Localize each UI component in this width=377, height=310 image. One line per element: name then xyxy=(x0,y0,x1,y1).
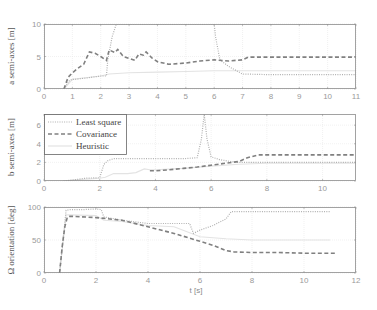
y-tick-label: 100 xyxy=(28,203,42,212)
x-tick-label: 4 xyxy=(153,184,158,193)
x-tick-label: 9 xyxy=(297,92,302,101)
x-tick-label: 2 xyxy=(97,184,102,193)
x-tick-label: 2 xyxy=(94,276,99,285)
y-tick-label: 50 xyxy=(32,236,41,245)
x-tick-label: 10 xyxy=(318,184,327,193)
x-tick-label: 10 xyxy=(323,92,332,101)
x-tick-label: 8 xyxy=(269,92,274,101)
x-tick-label: 12 xyxy=(352,276,361,285)
y-axis-label-orientation: Ω orientation [deg] xyxy=(6,205,16,274)
x-tick-label: 8 xyxy=(250,276,255,285)
panel-a-semi-axes: 012345678910110510 xyxy=(32,20,361,101)
x-tick-label: 8 xyxy=(265,184,270,193)
x-tick-label: 5 xyxy=(184,92,189,101)
y-tick-label: 0 xyxy=(37,177,42,186)
x-tick-label: 0 xyxy=(42,92,47,101)
y-tick-label: 0 xyxy=(37,85,42,94)
y-tick-label: 0 xyxy=(37,269,42,278)
y-tick-label: 5 xyxy=(37,53,42,62)
chart-figure: 012345678910110510 02468100246 024681012… xyxy=(0,0,377,310)
x-tick-label: 4 xyxy=(155,92,160,101)
x-tick-label: 0 xyxy=(42,184,47,193)
x-tick-label: 10 xyxy=(300,276,309,285)
x-tick-label: 7 xyxy=(240,92,245,101)
legend-label-covariance: Covariance xyxy=(76,129,117,139)
y-axis-label-b: b semi-axes [m] xyxy=(6,118,16,176)
x-tick-label: 3 xyxy=(127,92,132,101)
x-tick-label: 1 xyxy=(70,92,75,101)
x-axis-label: t [s] xyxy=(190,286,203,295)
y-tick-label: 4 xyxy=(37,140,42,149)
x-tick-label: 6 xyxy=(198,276,203,285)
y-axis-label-a: a semi-axes [m] xyxy=(6,27,16,84)
y-tick-label: 6 xyxy=(37,121,42,130)
x-tick-label: 2 xyxy=(99,92,104,101)
x-tick-label: 6 xyxy=(212,92,217,101)
x-tick-label: 4 xyxy=(146,276,151,285)
legend-label-heuristic: Heuristic xyxy=(76,141,109,151)
legend: Least square Covariance Heuristic xyxy=(45,115,127,155)
legend-label-least-square: Least square xyxy=(76,117,121,127)
x-tick-label: 11 xyxy=(352,92,361,101)
x-tick-label: 6 xyxy=(209,184,214,193)
y-tick-label: 10 xyxy=(32,20,41,29)
panel-orientation: 024681012050100 xyxy=(28,203,361,285)
y-tick-label: 2 xyxy=(37,158,42,167)
x-tick-label: 0 xyxy=(42,276,47,285)
